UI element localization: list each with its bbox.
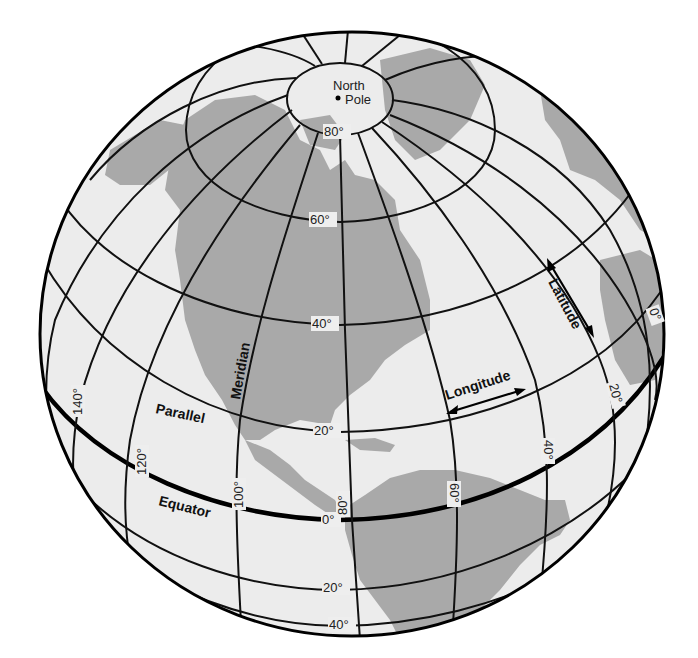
lon-40-label: 40° <box>541 440 556 460</box>
lon-100-label: 100° <box>231 481 246 508</box>
globe-diagram: North Pole 80° 60° 40° 20° 0° 20° 40° 14… <box>0 0 698 658</box>
north-pole-label-line1: North <box>333 78 365 93</box>
lat-south-40-label: 40° <box>329 617 349 632</box>
north-pole-label-line2: Pole <box>345 92 371 107</box>
lon-80-label: 80° <box>335 495 350 515</box>
lat-20-label: 20° <box>314 423 334 438</box>
lon-140-label: 140° <box>70 388 85 415</box>
lat-60-label: 60° <box>310 212 330 227</box>
lat-south-20-label: 20° <box>323 580 343 595</box>
lat-80-label: 80° <box>324 124 344 139</box>
lon-60-label: 60° <box>447 483 462 503</box>
north-pole-dot <box>336 96 341 101</box>
lat-0-label: 0° <box>322 512 334 527</box>
lon-120-label: 120° <box>134 448 149 475</box>
lat-40-label: 40° <box>312 316 332 331</box>
